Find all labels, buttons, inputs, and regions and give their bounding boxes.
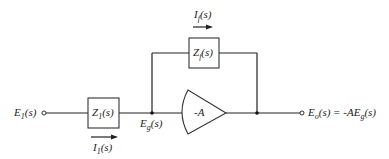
- amplifier-gain-label: -A: [194, 107, 204, 118]
- i1-label: I1(s): [93, 142, 112, 156]
- e1-label: E1(s): [14, 107, 36, 121]
- output-junction-dot: [255, 111, 259, 115]
- eg-label: Eg(s): [140, 118, 162, 132]
- eg-junction-dot: [150, 111, 154, 115]
- z1-label: Z1(s): [92, 107, 114, 121]
- output-terminal: [300, 111, 304, 115]
- if-label: If(s): [194, 9, 212, 23]
- circuit-diagram: [0, 0, 389, 159]
- if-arrow-head: [206, 25, 213, 30]
- i1-arrow-head: [111, 135, 118, 140]
- input-terminal: [42, 111, 46, 115]
- zf-label: Zf(s): [193, 47, 213, 61]
- eo-label: Eo(s) = -AEg(s): [308, 107, 376, 121]
